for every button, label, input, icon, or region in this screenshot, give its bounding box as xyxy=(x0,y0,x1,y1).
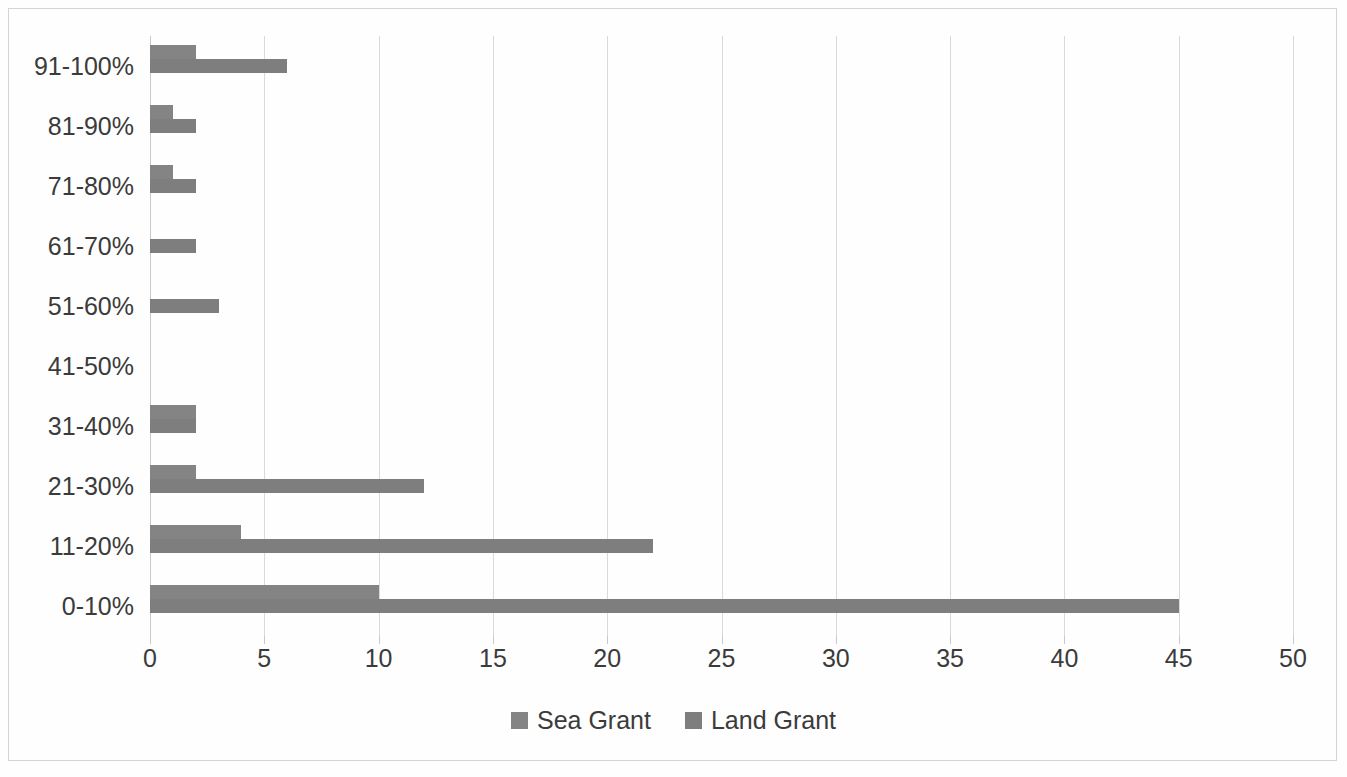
value-axis-label: 15 xyxy=(479,646,507,671)
category-row xyxy=(150,216,1293,276)
category-row xyxy=(150,156,1293,216)
legend-swatch-icon xyxy=(511,712,528,729)
category-axis-label: 41-50% xyxy=(4,354,134,379)
category-axis-label: 91-100% xyxy=(4,54,134,79)
axis-tick xyxy=(1293,636,1294,644)
bar-land-grant xyxy=(150,239,196,253)
category-axis-label: 61-70% xyxy=(4,234,134,259)
category-axis-label: 71-80% xyxy=(4,174,134,199)
category-row xyxy=(150,456,1293,516)
category-row xyxy=(150,576,1293,636)
value-axis-label: 50 xyxy=(1279,646,1307,671)
bar-sea-grant xyxy=(150,525,241,539)
legend-label: Sea Grant xyxy=(537,708,651,733)
bar-land-grant xyxy=(150,59,287,73)
axis-tick xyxy=(493,636,494,644)
bar-sea-grant xyxy=(150,45,196,59)
axis-tick xyxy=(264,636,265,644)
axis-tick xyxy=(1179,636,1180,644)
bar-land-grant xyxy=(150,539,653,553)
axis-tick xyxy=(950,636,951,644)
bar-land-grant xyxy=(150,299,219,313)
value-axis-label: 0 xyxy=(143,646,157,671)
gridline xyxy=(1293,36,1294,636)
axis-tick xyxy=(379,636,380,644)
value-axis-label: 5 xyxy=(257,646,271,671)
category-axis-label: 21-30% xyxy=(4,474,134,499)
plot-area xyxy=(150,36,1293,636)
bar-sea-grant xyxy=(150,105,173,119)
value-axis-label: 10 xyxy=(365,646,393,671)
bar-land-grant xyxy=(150,419,196,433)
category-row xyxy=(150,36,1293,96)
category-axis-label: 11-20% xyxy=(4,534,134,559)
axis-tick xyxy=(607,636,608,644)
category-row xyxy=(150,516,1293,576)
category-row xyxy=(150,276,1293,336)
category-row xyxy=(150,96,1293,156)
chart-legend: Sea GrantLand Grant xyxy=(0,708,1347,733)
legend-item[interactable]: Land Grant xyxy=(685,708,836,733)
legend-swatch-icon xyxy=(685,712,702,729)
axis-tick xyxy=(150,636,151,644)
axis-tick xyxy=(836,636,837,644)
value-axis-label: 40 xyxy=(1050,646,1078,671)
bar-chart: 91-100%81-90%71-80%61-70%51-60%41-50%31-… xyxy=(0,0,1347,777)
legend-label: Land Grant xyxy=(711,708,836,733)
value-axis-label: 45 xyxy=(1165,646,1193,671)
bar-sea-grant xyxy=(150,585,379,599)
bar-land-grant xyxy=(150,479,424,493)
category-axis-label: 81-90% xyxy=(4,114,134,139)
category-axis-label: 51-60% xyxy=(4,294,134,319)
bar-sea-grant xyxy=(150,465,196,479)
bar-sea-grant xyxy=(150,165,173,179)
legend-item[interactable]: Sea Grant xyxy=(511,708,651,733)
bar-land-grant xyxy=(150,119,196,133)
category-axis-label: 0-10% xyxy=(4,594,134,619)
value-axis: 05101520253035404550 xyxy=(150,646,1293,686)
category-axis-label: 31-40% xyxy=(4,414,134,439)
axis-tick xyxy=(1064,636,1065,644)
axis-tick xyxy=(722,636,723,644)
category-axis: 91-100%81-90%71-80%61-70%51-60%41-50%31-… xyxy=(0,36,134,636)
value-axis-label: 25 xyxy=(708,646,736,671)
value-axis-label: 35 xyxy=(936,646,964,671)
bar-land-grant xyxy=(150,179,196,193)
category-row xyxy=(150,336,1293,396)
bar-land-grant xyxy=(150,599,1179,613)
value-axis-label: 30 xyxy=(822,646,850,671)
bar-sea-grant xyxy=(150,405,196,419)
value-axis-label: 20 xyxy=(593,646,621,671)
category-row xyxy=(150,396,1293,456)
